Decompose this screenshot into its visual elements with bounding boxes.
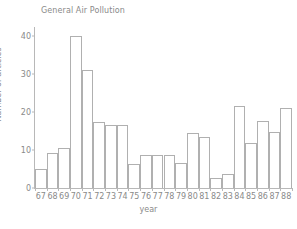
x-axis-tick-label: 68 [47,192,57,201]
x-axis-tick-label: 72 [94,192,104,201]
x-axis-tick-mark [234,188,235,191]
x-axis-tick-label: 88 [281,192,291,201]
bar [164,155,176,188]
x-axis-tick-mark [105,188,106,191]
bar [35,169,47,188]
x-axis-tick-mark [222,188,223,191]
x-axis-tick-label: 80 [188,192,198,201]
x-axis-tick-label: 85 [246,192,256,201]
bar [210,178,222,188]
x-axis-tick-label: 71 [82,192,92,201]
x-axis-tick-label: 81 [199,192,209,201]
y-axis-tick-mark [32,149,35,150]
plot-area: 0102030406768697071727374757677787980818… [35,28,292,188]
x-axis-tick-label: 67 [36,192,46,201]
bar [152,155,164,188]
x-axis-tick-label: 69 [59,192,69,201]
y-axis-tick-mark [32,111,35,112]
x-axis-tick-label: 74 [118,192,128,201]
bar [199,137,211,188]
bar [93,122,105,188]
x-axis-tick-label: 76 [141,192,151,201]
y-axis-tick-mark [32,73,35,74]
x-axis-tick-label: 83 [223,192,233,201]
x-axis-tick-mark [175,188,176,191]
x-axis-tick-mark [70,188,71,191]
x-axis-tick-mark [35,188,36,191]
x-axis-tick-mark [257,188,258,191]
x-axis-tick-mark [199,188,200,191]
bar [234,106,246,188]
x-axis-tick-mark [152,188,153,191]
bar [58,148,70,188]
x-axis-tick-mark [210,188,211,191]
chart-title: General Air Pollution [41,6,125,15]
chart-container: General Air Pollution 010203040676869707… [0,0,297,229]
x-axis-tick-mark [269,188,270,191]
x-axis-tick-label: 73 [106,192,116,201]
y-axis-label: Number of articles [0,25,3,145]
bar [257,121,269,188]
x-axis-tick-mark [117,188,118,191]
bar [140,155,152,188]
x-axis-tick-mark [164,188,165,191]
bar [187,133,199,188]
bar [82,70,94,188]
x-axis-tick-mark [140,188,141,191]
x-axis-tick-label: 86 [258,192,268,201]
bar [222,174,234,188]
bar [105,125,117,188]
x-axis-tick-label: 75 [129,192,139,201]
bar [128,164,140,188]
x-axis-tick-mark [292,188,293,191]
bar [70,36,82,188]
x-axis-tick-mark [280,188,281,191]
x-axis-tick-label: 82 [211,192,221,201]
bar [269,132,281,188]
bar [245,143,257,188]
x-axis-tick-mark [245,188,246,191]
x-axis-tick-mark [187,188,188,191]
x-axis-tick-label: 77 [153,192,163,201]
x-axis-tick-mark [93,188,94,191]
x-axis-tick-label: 84 [234,192,244,201]
x-axis-tick-mark [82,188,83,191]
x-axis-tick-label: 70 [71,192,81,201]
bar [117,125,129,188]
x-axis-tick-mark [47,188,48,191]
bar [175,163,187,188]
bar [280,108,292,188]
x-axis-tick-mark [128,188,129,191]
x-axis-tick-label: 87 [269,192,279,201]
x-axis-tick-mark [58,188,59,191]
x-axis-tick-label: 78 [164,192,174,201]
bar [47,153,59,188]
y-axis-tick-mark [32,35,35,36]
x-axis-label: year [0,205,297,214]
x-axis-tick-label: 79 [176,192,186,201]
